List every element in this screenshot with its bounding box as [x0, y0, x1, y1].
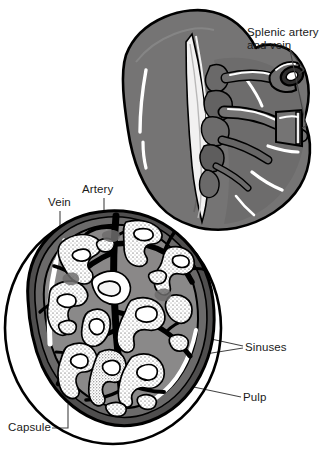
spleen-diagram: Splenic artery and vein Artery Vein Sinu…: [0, 0, 330, 449]
spleen-illustration: [0, 0, 330, 449]
label-vein: Vein: [48, 196, 71, 209]
label-sinuses: Sinuses: [245, 341, 287, 354]
label-capsule: Capsule: [8, 421, 51, 434]
label-pulp: Pulp: [243, 391, 266, 404]
section-wedge: [28, 211, 214, 426]
label-splenic-artery-and-vein: Splenic artery and vein: [247, 26, 319, 52]
label-artery: Artery: [82, 183, 113, 196]
cut-vessel-band: [276, 110, 302, 146]
